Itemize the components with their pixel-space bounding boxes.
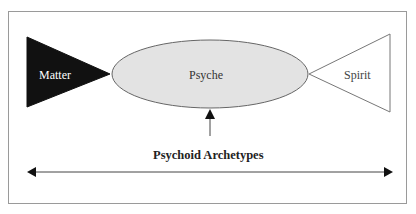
diagram-canvas [0,0,416,214]
matter-label: Matter [39,68,71,82]
pointer-arrow-head-icon [205,109,215,119]
psyche-label: Psyche [189,68,223,82]
spectrum-arrow-right-head-icon [384,167,393,177]
psychoid-archetypes-label: Psychoid Archetypes [153,148,264,162]
spectrum-arrow-left-head-icon [27,167,36,177]
spirit-label: Spirit [344,68,371,82]
